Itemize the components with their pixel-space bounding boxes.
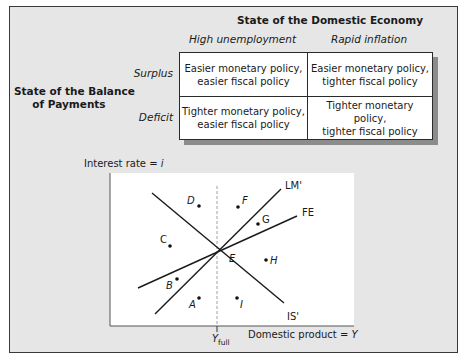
x-axis-variable: Y [352,329,358,340]
point-label-i: I [240,299,243,310]
point-label-f: F [242,195,248,206]
point-label-g: G [262,214,270,225]
x-axis-label-text: Domestic product = [248,329,352,340]
islm-fe-chart [0,0,467,361]
fe-label: FE [302,207,314,218]
point-label-d: D [187,195,195,206]
fe-curve [138,216,297,288]
point-f [236,205,240,209]
is-label: IS' [287,311,299,322]
point-label-h: H [270,255,278,266]
point-c [168,244,172,248]
x-axis-label: Domestic product = Y [248,329,358,340]
point-a [197,296,201,300]
y-full-subscript: full [218,338,230,347]
point-label-b: B [166,280,173,291]
point-g [256,222,260,226]
y-full-tick-label: Yfull [212,333,230,347]
lm-label: LM' [285,180,302,191]
point-b [175,277,179,281]
point-d [197,204,201,208]
point-i [235,296,239,300]
point-label-e: E [229,253,235,264]
point-label-a: A [189,299,196,310]
point-h [264,258,268,262]
point-label-c: C [160,234,167,245]
